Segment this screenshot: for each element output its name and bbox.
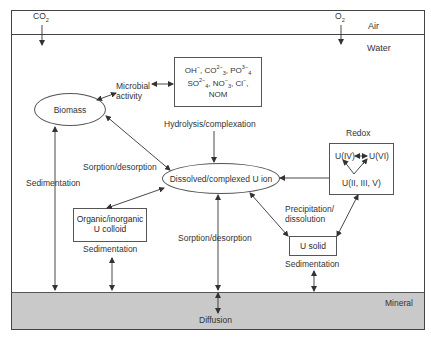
ligand-line-3: NOM xyxy=(175,90,261,100)
biomass-node: Biomass xyxy=(34,93,106,126)
redox-title: Redox xyxy=(346,129,371,138)
redox-other: U(II, III, V) xyxy=(342,179,381,188)
co2-label: CO2 xyxy=(33,12,49,23)
colloid-label-2: U colloid xyxy=(74,224,146,234)
sedimentation-solid-label: Sedimentation xyxy=(285,260,339,269)
sorption-lower-label: Sorption/desorption xyxy=(178,234,252,243)
u-solid-label: U solid xyxy=(300,241,326,251)
redox-u4: U(IV) xyxy=(335,152,355,161)
redox-box: U(IV) U(VI) U(II, III, V) xyxy=(329,143,394,195)
diffusion-label: Diffusion xyxy=(199,316,232,325)
hydrolysis-label: Hydrolysis/complexation xyxy=(164,120,256,129)
sedimentation-left-label: Sedimentation xyxy=(26,179,80,188)
u-solid-node: U solid xyxy=(289,236,337,256)
sedimentation-colloid-label: Sedimentation xyxy=(83,245,137,254)
redox-u6: U(VI) xyxy=(369,152,389,161)
dissolved-label: Dissolved/complexed U ion xyxy=(170,174,273,184)
mineral-label: Mineral xyxy=(385,299,413,308)
microbial-activity-label: Microbial activity xyxy=(116,82,150,102)
ligand-line-2: SO2−4, NO−3, Cl−, xyxy=(175,77,261,90)
ligand-box: OH−, CO2−3, PO3−4 SO2−4, NO−3, Cl−, NOM xyxy=(174,57,262,107)
air-water-boundary xyxy=(11,34,425,35)
water-label: Water xyxy=(367,44,391,54)
biomass-label: Biomass xyxy=(54,105,87,115)
colloid-node: Organic/inorganic U colloid xyxy=(73,208,147,242)
air-label: Air xyxy=(368,22,379,32)
precipitation-label: Precipitation/ dissolution xyxy=(285,204,334,224)
colloid-label-1: Organic/inorganic xyxy=(74,214,146,224)
sorption-upper-label: Sorption/desorption xyxy=(83,163,157,172)
o2-label: O2 xyxy=(335,12,345,23)
dissolved-u-ion-node: Dissolved/complexed U ion xyxy=(162,163,280,194)
ligand-line-1: OH−, CO2−3, PO3−4 xyxy=(175,64,261,77)
